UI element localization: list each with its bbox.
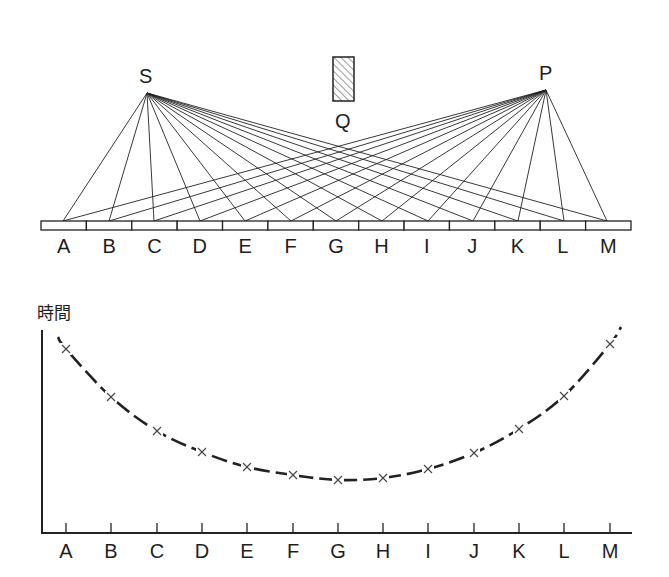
ray-s-i bbox=[147, 93, 428, 221]
cross-marker-f bbox=[287, 469, 299, 481]
strip-segment bbox=[313, 221, 358, 230]
data-markers bbox=[60, 338, 616, 486]
strip-point-labels: ABCDEFGHIJKLM bbox=[57, 235, 617, 257]
x-label-k: K bbox=[512, 540, 526, 562]
strip-label-k: K bbox=[511, 235, 525, 257]
cross-marker-h bbox=[377, 472, 389, 484]
strip-label-a: A bbox=[57, 235, 71, 257]
time-graph: 時間 ABCDEFGHIJKLM bbox=[37, 303, 632, 562]
x-label-m: M bbox=[602, 540, 619, 562]
strip-label-c: C bbox=[147, 235, 161, 257]
strip-segment bbox=[586, 221, 631, 230]
cross-marker-k bbox=[513, 423, 525, 435]
cross-marker-d bbox=[196, 446, 208, 458]
receiver-label-p: P bbox=[539, 62, 552, 84]
strip-label-d: D bbox=[193, 235, 207, 257]
x-label-f: F bbox=[287, 540, 299, 562]
x-label-l: L bbox=[558, 540, 569, 562]
detector-strip bbox=[41, 221, 631, 230]
x-label-h: H bbox=[376, 540, 390, 562]
cross-marker-a bbox=[60, 343, 72, 355]
ray-s-b bbox=[109, 93, 147, 221]
strip-segment bbox=[540, 221, 585, 230]
x-label-j: J bbox=[469, 540, 479, 562]
cross-marker-i bbox=[422, 463, 434, 475]
x-label-g: G bbox=[330, 540, 346, 562]
strip-segment bbox=[359, 221, 404, 230]
ray-s-m bbox=[147, 93, 607, 221]
ray-p-h bbox=[382, 90, 546, 221]
strip-label-e: E bbox=[239, 235, 252, 257]
strip-segment bbox=[86, 221, 131, 230]
strip-label-j: J bbox=[467, 235, 477, 257]
strip-segment bbox=[177, 221, 222, 230]
strip-segment bbox=[41, 221, 86, 230]
strip-label-f: F bbox=[285, 235, 297, 257]
diagram-canvas: S P Q ABCDEFGHIJKLM 時間 ABCDEFGHIJKLM bbox=[0, 0, 669, 577]
strip-segment bbox=[449, 221, 494, 230]
y-axis-label: 時間 bbox=[37, 303, 71, 323]
strip-segment bbox=[268, 221, 313, 230]
x-label-c: C bbox=[150, 540, 164, 562]
ray-p-k bbox=[518, 90, 546, 221]
fit-curve bbox=[58, 327, 621, 480]
cross-marker-j bbox=[468, 447, 480, 459]
x-label-e: E bbox=[240, 540, 253, 562]
x-axis-ticks bbox=[66, 523, 610, 533]
strip-label-i: I bbox=[424, 235, 430, 257]
x-axis-labels: ABCDEFGHIJKLM bbox=[59, 540, 618, 562]
source-label-s: S bbox=[139, 65, 152, 87]
obstacle-label-q: Q bbox=[335, 110, 351, 132]
x-label-a: A bbox=[59, 540, 73, 562]
cross-marker-e bbox=[241, 461, 253, 473]
strip-segment bbox=[495, 221, 540, 230]
ray-s-g bbox=[147, 93, 336, 221]
x-label-i: I bbox=[425, 540, 431, 562]
strip-label-l: L bbox=[557, 235, 568, 257]
strip-label-b: B bbox=[102, 235, 115, 257]
strip-label-h: H bbox=[374, 235, 388, 257]
cross-marker-m bbox=[604, 338, 616, 350]
ray-diagram: S P Q ABCDEFGHIJKLM bbox=[41, 57, 631, 257]
x-label-d: D bbox=[195, 540, 209, 562]
ray-s-l bbox=[147, 93, 564, 221]
x-label-b: B bbox=[104, 540, 117, 562]
strip-segment bbox=[223, 221, 268, 230]
cross-marker-b bbox=[105, 391, 117, 403]
strip-label-m: M bbox=[600, 235, 617, 257]
strip-segment bbox=[132, 221, 177, 230]
cross-marker-g bbox=[332, 474, 344, 486]
cross-marker-l bbox=[558, 390, 570, 402]
ray-s-c bbox=[147, 93, 154, 221]
ray-p-a bbox=[63, 90, 546, 221]
cross-marker-c bbox=[151, 425, 163, 437]
graph-axes bbox=[42, 330, 632, 533]
obstacle-q bbox=[333, 57, 354, 101]
strip-label-g: G bbox=[328, 235, 344, 257]
ray-s-f bbox=[147, 93, 291, 221]
ray-p-g bbox=[336, 90, 546, 221]
strip-segment bbox=[404, 221, 449, 230]
